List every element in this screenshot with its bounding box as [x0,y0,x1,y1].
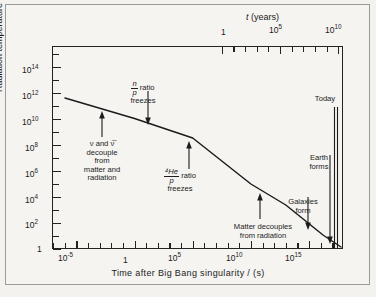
arrow-helium-ratio [186,141,192,169]
y-axis-title: Radiation temperature ( K ) [0,0,4,92]
helium-line-2: freezes [147,185,213,194]
x-axis-title: Time after Big Bang singularity / (s) [0,268,376,278]
annotation-matter-decouples: Matter decouples from radiation [220,223,306,240]
np-denominator: p [131,89,137,97]
annotation-np-ratio-freezes: n p ratio freezes [112,80,174,106]
top-axis-title: t (years) [246,12,279,22]
x-tick-label-1e15: 1015 [285,254,301,263]
helium-denominator: p [164,177,179,185]
galaxies-line-2: form [277,207,329,216]
arrow-neutrino-decoupling [99,111,105,137]
x-tick-label-1: 1 [123,256,128,265]
y-tick-label-1e6: 106 [25,170,38,179]
y-tick-label-1e10: 1010 [22,118,38,127]
helium-fraction: ⁴He p [164,168,179,184]
x-tick-label-1e5: 105 [168,254,181,263]
arrow-matter-decouples [257,193,263,219]
figure-root: t (years) 1 105 1010 Radiation temperatu… [0,0,376,297]
x-tick-label-1e-5: 10-5 [58,254,73,263]
top-tick-label-1: 1 [221,28,226,37]
y-tick-label-1e4: 104 [25,196,38,205]
np-line-2: freezes [112,97,174,106]
annotation-today: Today [305,95,345,104]
y-tick-label-1e12: 1012 [22,92,38,101]
np-fraction: n p [131,80,137,96]
x-tick-label-1e10: 1010 [226,254,242,263]
helium-line-1: ratio [181,171,196,180]
top-tick-label-1e10: 1010 [325,26,341,35]
y-tick-label-1e8: 108 [25,144,38,153]
top-tick-label-1e5: 105 [269,26,282,35]
annotation-helium-ratio-freezes: ⁴He p ratio freezes [147,168,213,194]
annotation-earth-forms: Earth forms [298,154,340,171]
neutrino-line-5: radiation [70,174,134,183]
annotation-galaxies-form: Galaxies form [277,198,329,215]
earth-line-2: forms [298,163,340,172]
np-line-1: ratio [140,83,155,92]
annotation-neutrino-decoupling: ν and ν̅ decouple from matter and radiat… [70,140,134,183]
matter-line-2: from radiation [220,232,306,241]
y-tick-label-1e14: 1014 [22,66,38,75]
today-line-1: Today [305,95,345,104]
y-tick-label-1: 1 [37,245,42,254]
y-tick-label-1e2: 102 [25,221,38,230]
